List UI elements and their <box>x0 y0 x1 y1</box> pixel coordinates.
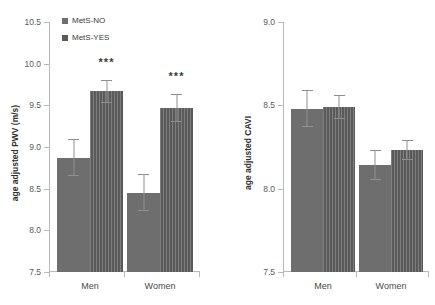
error-cap-bottom <box>138 210 149 211</box>
error-cap-top <box>171 94 182 95</box>
bar-group-men-pwv: *** <box>57 22 123 272</box>
x-tick-pwv-mid <box>124 272 125 277</box>
bar-men-mets-no-pwv[interactable] <box>57 158 90 272</box>
error-cap-bottom <box>334 118 345 119</box>
error-cap-bottom <box>68 175 79 176</box>
bar-men-mets-no-cavi[interactable] <box>291 109 323 272</box>
error-cap-top <box>302 90 313 91</box>
y-tick-label-cavi-9-0: 9.0 <box>263 17 275 27</box>
bar-men-mets-yes-pwv[interactable]: *** <box>90 91 123 272</box>
plot-area-pwv: 10.5 10.0 9.5 9.0 8.5 8.0 7.5 <box>49 22 200 272</box>
x-tick-pwv-start <box>49 272 50 277</box>
error-cap-bottom <box>370 179 381 180</box>
error-cap-top <box>68 139 79 140</box>
panel-pwv: age adjusted PWV (m/s) MetS-NO MetS-YES … <box>0 0 217 305</box>
plot-area-cavi: 9.0 8.5 8.0 7.5 <box>283 22 429 272</box>
panel-cavi: age adjusted CAVI MetS-NO MetS-YES 9.0 8… <box>217 0 435 305</box>
significance-marker-women-pwv: *** <box>169 71 185 82</box>
x-axis-label-men-cavi: Men <box>314 281 332 291</box>
x-tick-cavi-end <box>428 272 429 277</box>
y-tick-label-pwv-9-5: 9.5 <box>29 100 41 110</box>
bar-men-mets-yes-cavi[interactable] <box>323 107 355 272</box>
bar-group-women-cavi <box>359 22 423 272</box>
x-axis-label-women-pwv: Women <box>145 281 176 291</box>
error-cap-top <box>101 80 112 81</box>
x-tick-cavi-mid <box>356 272 357 277</box>
error-cap-top <box>370 150 381 151</box>
y-tick-pwv-8-5 <box>44 189 49 190</box>
y-tick-cavi-9-0 <box>278 22 283 23</box>
bar-women-mets-no-cavi[interactable] <box>359 165 391 272</box>
error-bar-men-mets-no-cavi <box>307 90 308 127</box>
y-tick-label-pwv-8-0: 8.0 <box>29 225 41 235</box>
bar-women-mets-yes-cavi[interactable] <box>391 150 423 272</box>
error-bar-men-mets-yes-cavi <box>339 95 340 118</box>
y-tick-pwv-10-0 <box>44 64 49 65</box>
y-axis-title-pwv-label: age adjusted PWV (m/s) <box>10 104 20 200</box>
x-tick-pwv-end <box>199 272 200 277</box>
y-axis-title-cavi: age adjusted CAVI <box>239 0 257 305</box>
y-tick-pwv-9-5 <box>44 105 49 106</box>
y-axis-line-pwv <box>49 22 50 272</box>
y-tick-label-pwv-9-0: 9.0 <box>29 142 41 152</box>
error-cap-bottom <box>302 126 313 127</box>
y-tick-label-pwv-10-5: 10.5 <box>24 17 41 27</box>
significance-marker-men-pwv: *** <box>99 57 115 68</box>
error-cap-bottom <box>171 121 182 122</box>
y-tick-label-cavi-8-5: 8.5 <box>263 100 275 110</box>
y-tick-pwv-8-0 <box>44 230 49 231</box>
error-bar-women-mets-no-cavi <box>375 150 376 180</box>
error-cap-bottom <box>402 159 413 160</box>
x-axis-label-men-pwv: Men <box>81 281 99 291</box>
error-cap-bottom <box>101 102 112 103</box>
bar-group-women-pwv: *** <box>127 22 193 272</box>
bar-women-mets-yes-pwv[interactable]: *** <box>160 108 193 272</box>
error-bar-women-mets-no-pwv <box>143 174 144 211</box>
y-tick-label-cavi-7-5: 7.5 <box>263 267 275 277</box>
error-bar-women-mets-yes-cavi <box>407 140 408 160</box>
y-tick-pwv-10-5 <box>44 22 49 23</box>
y-tick-cavi-8-5 <box>278 105 283 106</box>
bar-group-men-cavi <box>291 22 355 272</box>
error-cap-top <box>402 140 413 141</box>
error-bar-men-mets-no-pwv <box>73 139 74 176</box>
error-bar-women-mets-yes-pwv <box>176 94 177 122</box>
y-tick-label-pwv-10-0: 10.0 <box>24 59 41 69</box>
y-tick-label-cavi-8-0: 8.0 <box>263 184 275 194</box>
x-axis-label-women-cavi: Women <box>376 281 407 291</box>
y-tick-cavi-8-0 <box>278 189 283 190</box>
error-bar-men-mets-yes-pwv <box>106 80 107 103</box>
figure-two-panel-bar-charts: age adjusted PWV (m/s) MetS-NO MetS-YES … <box>0 0 435 305</box>
y-axis-title-cavi-label: age adjusted CAVI <box>243 116 253 190</box>
y-tick-pwv-9-0 <box>44 147 49 148</box>
error-cap-top <box>334 95 345 96</box>
error-cap-top <box>138 174 149 175</box>
y-axis-line-cavi <box>283 22 284 272</box>
x-tick-cavi-start <box>283 272 284 277</box>
y-tick-label-pwv-8-5: 8.5 <box>29 184 41 194</box>
y-axis-title-pwv: age adjusted PWV (m/s) <box>6 0 24 305</box>
bar-women-mets-no-pwv[interactable] <box>127 193 160 272</box>
y-tick-label-pwv-7-5: 7.5 <box>29 267 41 277</box>
